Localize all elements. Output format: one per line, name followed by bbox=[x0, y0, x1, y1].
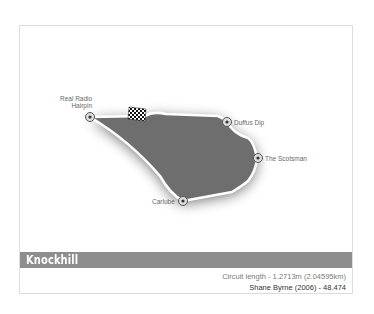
corner-label-line: Hairpin bbox=[60, 102, 92, 109]
corner-label-line: Real Radio bbox=[60, 95, 92, 102]
corner-marker-icon bbox=[223, 118, 232, 127]
circuit-length: Circuit length - 1.2713m (2.04595km) bbox=[222, 272, 346, 281]
corner-label-carlube: Carlube bbox=[152, 198, 175, 205]
corner-marker-icon bbox=[179, 197, 188, 206]
corner-marker-icon bbox=[254, 154, 263, 163]
track-infield bbox=[90, 113, 257, 201]
lap-record: Shane Byrne (2006) - 48.474 bbox=[249, 283, 346, 292]
corner-label-the-scotsman: The Scotsman bbox=[265, 155, 307, 162]
checkered-flag-icon bbox=[128, 107, 146, 121]
corner-label-duffus-dip: Duffus Dip bbox=[234, 119, 264, 126]
circuit-title: Knockhill bbox=[26, 253, 78, 267]
corner-marker-icon bbox=[86, 113, 95, 122]
circuit-map: Real Radio Hairpin Duffus Dip The Scotsm… bbox=[20, 26, 354, 252]
corner-label-real-radio-hairpin: Real Radio Hairpin bbox=[60, 95, 92, 109]
circuit-card: Real Radio Hairpin Duffus Dip The Scotsm… bbox=[19, 25, 353, 294]
track-diagram bbox=[20, 26, 354, 252]
title-bar: Knockhill bbox=[20, 252, 352, 268]
